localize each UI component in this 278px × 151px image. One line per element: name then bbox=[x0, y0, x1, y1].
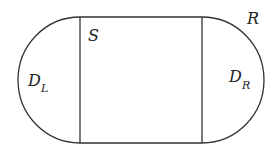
label-r: R bbox=[246, 9, 259, 28]
label-dr: D bbox=[228, 67, 242, 86]
label-dr-subscript: R bbox=[241, 79, 250, 92]
label-dl-subscript: L bbox=[40, 82, 48, 95]
label-s: S bbox=[88, 26, 99, 45]
region-outline bbox=[18, 17, 264, 143]
label-dl: D bbox=[27, 71, 41, 90]
stadium-diagram: S R D L D R bbox=[0, 0, 278, 151]
